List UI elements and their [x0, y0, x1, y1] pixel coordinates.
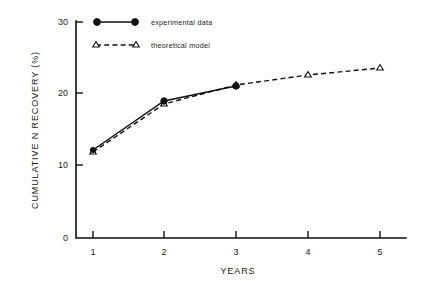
- experimental-marker-year-1: [90, 147, 95, 152]
- theoretical-marker-year-4: [305, 72, 312, 78]
- y-tick-label-20: 20: [58, 88, 68, 98]
- legend-marker-theoretical-left: [93, 42, 100, 48]
- y-tick-label-30: 30: [58, 17, 68, 27]
- axis-lines: [76, 21, 406, 238]
- legend-label-theoretical: theoretical model: [151, 41, 210, 50]
- chart-axes: [76, 21, 406, 238]
- x-tick-label-3: 3: [233, 247, 238, 257]
- chart-figure: 30 20 10 0 1 2 3 4 5 YEARS CUMULATIVE N …: [0, 0, 429, 281]
- x-tick-label-1: 1: [90, 247, 95, 257]
- theoretical-marker-year-5: [377, 65, 384, 71]
- legend-item-experimental: experimental data: [94, 18, 213, 27]
- legend-marker-experimental-left: [94, 19, 101, 26]
- series-experimental-data: [90, 83, 239, 153]
- x-tick-label-4: 4: [305, 247, 310, 257]
- experimental-marker-year-2: [161, 98, 167, 104]
- x-tick-label-5: 5: [377, 247, 382, 257]
- x-axis-title: YEARS: [220, 266, 255, 276]
- y-axis-tick-labels: 30 20 10 0: [58, 17, 68, 243]
- experimental-data-line: [93, 86, 236, 150]
- y-tick-label-0: 0: [63, 233, 68, 243]
- legend-marker-theoretical-right: [133, 42, 140, 48]
- x-tick-label-2: 2: [161, 247, 166, 257]
- legend-marker-experimental-right: [132, 19, 139, 26]
- legend-label-experimental: experimental data: [151, 18, 212, 27]
- series-theoretical-model: [90, 65, 384, 155]
- chart-legend: experimental data theoretical model: [93, 18, 213, 50]
- y-tick-label-10: 10: [58, 160, 68, 170]
- y-axis-title: CUMULATIVE N RECOVERY (%): [30, 51, 40, 209]
- legend-item-theoretical: theoretical model: [93, 41, 210, 50]
- experimental-marker-year-3: [233, 83, 239, 89]
- x-axis-tick-labels: 1 2 3 4 5: [90, 247, 382, 257]
- theoretical-model-line: [93, 68, 380, 152]
- line-chart: 30 20 10 0 1 2 3 4 5 YEARS CUMULATIVE N …: [0, 0, 429, 281]
